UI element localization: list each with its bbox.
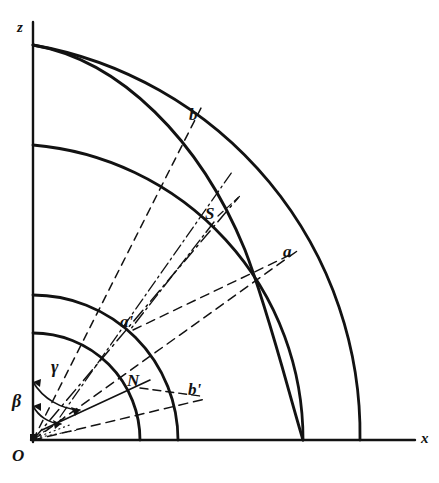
geometry-figure: z x O b S a a' N b' γ β	[0, 0, 439, 483]
point-label-a-prime: a'	[120, 313, 133, 330]
arc-through-b-S	[33, 45, 303, 440]
origin-marker	[30, 434, 37, 441]
angle-marks-group	[33, 382, 80, 424]
arc-2	[33, 145, 303, 440]
figure-canvas	[0, 0, 439, 483]
chord-S-aprime	[130, 222, 214, 330]
point-label-b: b	[189, 106, 198, 123]
point-label-a: a	[283, 243, 292, 260]
point-label-b-prime: b'	[188, 381, 201, 398]
point-label-N: N	[127, 372, 139, 389]
point-label-S: S	[205, 205, 214, 222]
rays-group	[33, 108, 300, 440]
axis-label-z: z	[17, 20, 23, 35]
axis-label-x: x	[421, 431, 429, 446]
angle-label-beta: β	[12, 392, 21, 410]
chords-group	[130, 120, 292, 396]
point-label-origin: O	[12, 447, 24, 464]
ray-to-S	[33, 198, 238, 440]
ray-to-b	[33, 108, 201, 440]
arc-inner-4	[33, 333, 140, 440]
angle-label-gamma: γ	[51, 358, 59, 376]
angle-beta-arc	[33, 406, 61, 424]
